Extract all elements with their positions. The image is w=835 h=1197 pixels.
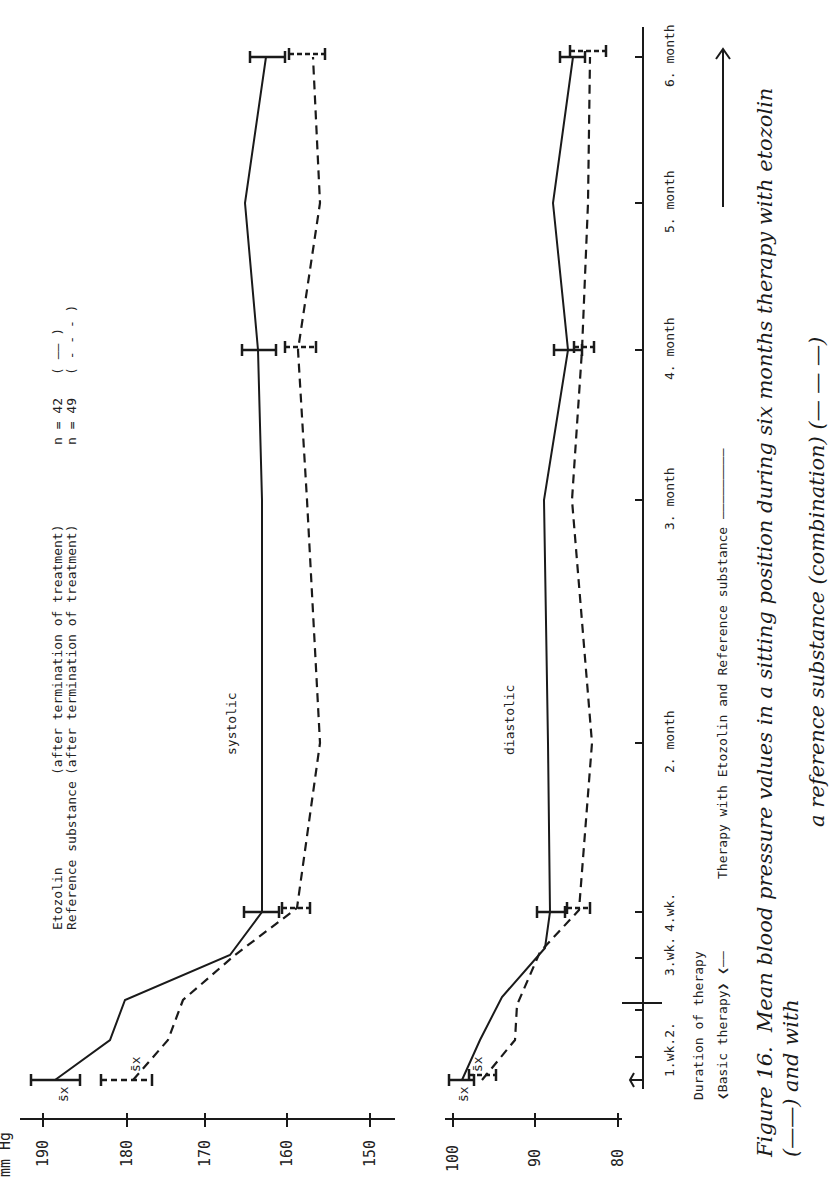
caption-number: Figure 16.	[753, 1046, 777, 1157]
tick-170: 170	[196, 1140, 214, 1167]
sem-label-etozolin: s̄x	[56, 1086, 71, 1102]
diastolic-reference-line	[482, 57, 592, 1080]
tick-190: 190	[34, 1140, 52, 1167]
time-axis	[622, 27, 662, 1089]
legend-reference-symbol: ( - - - )	[64, 305, 79, 375]
sem-label-etozolin-diastolic: s̄x	[456, 1086, 471, 1102]
blood-pressure-chart: mm Hg 190 180 170 160 150 s̄x s̄x 100 90…	[0, 0, 835, 1197]
tick-180: 180	[118, 1140, 136, 1167]
systolic-reference-line	[133, 57, 320, 1080]
legend: Etozolin Reference substance (after term…	[50, 305, 79, 930]
tick-80: 80	[609, 1149, 627, 1167]
time-label-4-wk: 4.wk.	[662, 893, 677, 932]
time-label-5-month: 5. month	[662, 170, 677, 233]
time-label-6-month: 6. month	[662, 24, 677, 87]
diastolic-etozolin-line	[462, 57, 573, 1080]
tick-100: 100	[444, 1145, 462, 1172]
systolic-etozolin-line	[55, 57, 266, 1080]
time-label-3-month: 3. month	[662, 467, 677, 530]
tick-90: 90	[526, 1149, 544, 1167]
panel-label-diastolic: diastolic	[502, 685, 517, 755]
diastolic-y-axis	[445, 1113, 622, 1127]
time-label-2-month: 2. month	[662, 710, 677, 773]
basic-therapy-label: ❮Basic therapy❯ ❮——	[715, 951, 730, 1100]
legend-etozolin-symbol: ( —— )	[50, 328, 65, 375]
time-label-4-month: 4. month	[662, 317, 677, 380]
legend-etozolin: Etozolin	[50, 867, 65, 930]
legend-reference: Reference substance	[64, 781, 79, 930]
sem-label-reference: s̄x	[128, 1056, 143, 1072]
y-unit-label: mm Hg	[0, 1132, 14, 1177]
panel-label-systolic: systolic	[224, 692, 239, 755]
therapy-phase-label: Therapy with Etozolin and Reference subs…	[715, 448, 730, 879]
time-label-3-wk: 3.wk.	[662, 937, 677, 976]
systolic-y-axis	[20, 1113, 395, 1127]
legend-etozolin-note: (after termination of treatment)	[50, 525, 65, 775]
tick-160: 160	[278, 1140, 296, 1167]
legend-etozolin-n: n = 42	[50, 398, 65, 445]
therapy-arrow	[716, 49, 730, 207]
caption-line-1: Mean blood pressure values in a sitting …	[753, 88, 803, 1157]
figure-stage: mm Hg 190 180 170 160 150 s̄x s̄x 100 90…	[0, 0, 835, 1197]
diastolic-error-bars	[449, 45, 606, 1086]
caption-line-2: a reference substance (combination) (— —…	[804, 37, 830, 1157]
legend-reference-n: n = 49	[64, 398, 79, 445]
legend-reference-note: (after termination of treatment)	[64, 525, 79, 775]
figure-caption: Figure 16.Mean blood pressure values in …	[752, 37, 830, 1157]
tick-150: 150	[361, 1140, 379, 1167]
time-label-1-2-wk: 1.wk.2.	[662, 1022, 677, 1077]
duration-label: Duration of therapy	[691, 951, 706, 1100]
